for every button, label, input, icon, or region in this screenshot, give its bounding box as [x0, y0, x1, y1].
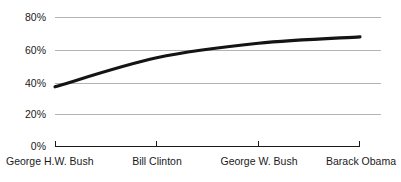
line-chart: 80% 60% 40% 20% 0% George H.W. Bush Bill…: [0, 0, 401, 182]
y-tick-label-80: 80%: [25, 11, 46, 23]
x-tick-label-george-w-bush: George W. Bush: [220, 155, 297, 167]
series-line: [55, 37, 360, 87]
y-tick-label-0: 0%: [31, 140, 46, 152]
y-tick-label-20: 20%: [25, 108, 46, 120]
y-axis-tick-labels: 80% 60% 40% 20% 0%: [25, 11, 46, 152]
x-tick-label-george-hw-bush: George H.W. Bush: [6, 155, 94, 167]
x-axis-tick-labels: George H.W. Bush Bill Clinton George W. …: [6, 155, 396, 167]
x-tick-label-bill-clinton: Bill Clinton: [132, 155, 182, 167]
x-tick-label-barack-obama: Barack Obama: [326, 155, 396, 167]
y-tick-label-40: 40%: [25, 77, 46, 89]
gridlines: [55, 18, 381, 115]
y-tick-label-60: 60%: [25, 44, 46, 56]
chart-container: 80% 60% 40% 20% 0% George H.W. Bush Bill…: [0, 0, 401, 182]
